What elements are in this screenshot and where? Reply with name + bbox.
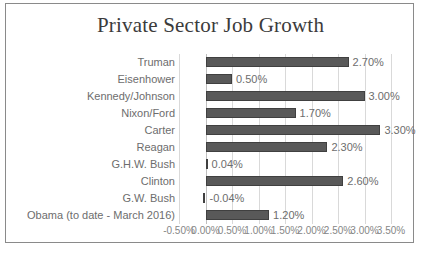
bar[interactable]: [206, 125, 381, 135]
category-label: G.W. Bush: [122, 190, 175, 207]
category-label: Nixon/Ford: [121, 105, 175, 122]
tick-label: 1.50%: [271, 225, 299, 236]
tick-label: 0.00%: [191, 225, 219, 236]
category-label: Eisenhower: [118, 71, 175, 88]
category-label: Truman: [138, 54, 176, 71]
bar[interactable]: [206, 176, 344, 186]
bar-row: 3.00%: [179, 88, 391, 105]
bar-value-label: 3.30%: [384, 122, 415, 139]
tick-label: -0.50%: [163, 225, 195, 236]
bar-value-label: 2.30%: [331, 139, 362, 156]
tick-label: 3.00%: [350, 225, 378, 236]
bar[interactable]: [206, 91, 365, 101]
chart-title: Private Sector Job Growth: [6, 13, 415, 38]
category-label: Carter: [144, 122, 175, 139]
tick-label: 2.00%: [297, 225, 325, 236]
gridline: [391, 54, 392, 224]
tick-label: 2.50%: [324, 225, 352, 236]
category-label: Obama (to date - March 2016): [27, 207, 175, 224]
plot-area: 2.70%0.50%3.00%1.70%3.30%2.30%0.04%2.60%…: [179, 54, 391, 224]
bar-value-label: 2.70%: [353, 54, 384, 71]
tick-label: 0.50%: [218, 225, 246, 236]
caption-strip: [8, 248, 408, 257]
tick-label: 1.00%: [244, 225, 272, 236]
bar-value-label: 1.70%: [300, 105, 331, 122]
bar-value-label: 0.50%: [236, 71, 267, 88]
bar-row: 1.20%: [179, 207, 391, 224]
bar[interactable]: [206, 142, 328, 152]
bar-row: 0.50%: [179, 71, 391, 88]
bar[interactable]: [203, 193, 205, 203]
category-label: Reagan: [136, 139, 175, 156]
bar[interactable]: [206, 74, 233, 84]
bar-row: 2.70%: [179, 54, 391, 71]
bar-value-label: 1.20%: [273, 207, 304, 224]
category-axis-labels: TrumanEisenhowerKennedy/JohnsonNixon/For…: [6, 54, 181, 224]
value-axis-ticks: -0.50%0.00%0.50%1.00%1.50%2.00%2.50%3.00…: [179, 225, 391, 241]
tick-label: 3.50%: [377, 225, 405, 236]
category-label: G.H.W. Bush: [111, 156, 175, 173]
bar-value-label: 0.04%: [212, 156, 243, 173]
bar-value-label: 2.60%: [347, 173, 378, 190]
plot-wrapper: TrumanEisenhowerKennedy/JohnsonNixon/For…: [6, 54, 415, 244]
bar-row: 3.30%: [179, 122, 391, 139]
bar-row: 2.30%: [179, 139, 391, 156]
bar[interactable]: [206, 159, 208, 169]
category-label: Kennedy/Johnson: [87, 88, 175, 105]
category-label: Clinton: [141, 173, 175, 190]
bar-row: -0.04%: [179, 190, 391, 207]
bar[interactable]: [206, 57, 349, 67]
bar-value-label: 3.00%: [369, 88, 400, 105]
bar-value-label: -0.04%: [210, 190, 245, 207]
bar[interactable]: [206, 210, 270, 220]
bar-row: 0.04%: [179, 156, 391, 173]
bar-row: 1.70%: [179, 105, 391, 122]
bar[interactable]: [206, 108, 296, 118]
chart-frame: Private Sector Job Growth TrumanEisenhow…: [5, 3, 414, 243]
bar-row: 2.60%: [179, 173, 391, 190]
